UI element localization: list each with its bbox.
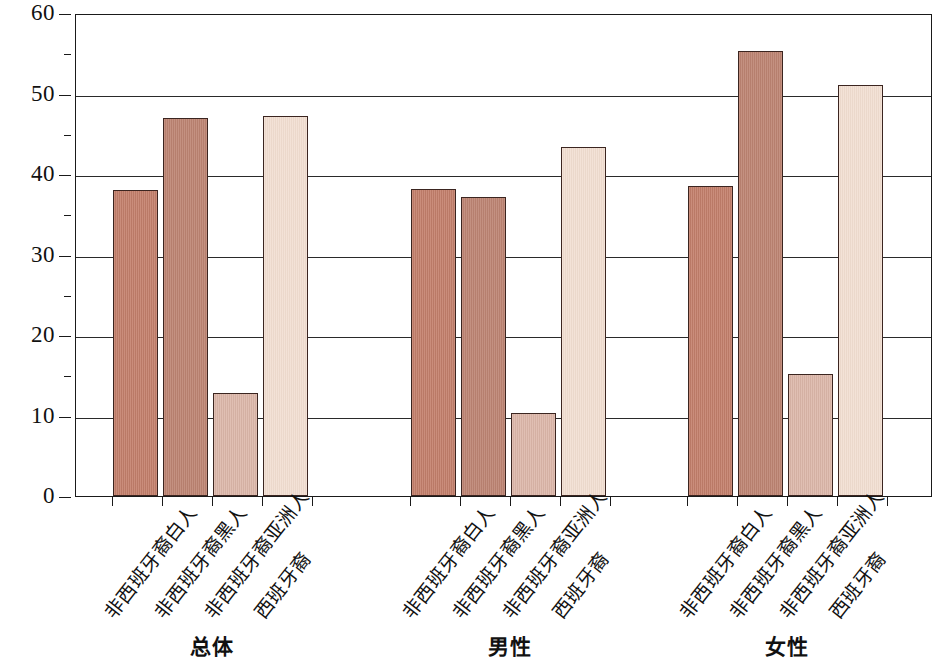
x-axis-group-label: 女性 — [647, 630, 927, 660]
x-axis-group-label: 男性 — [370, 630, 650, 660]
x-axis-tick — [837, 497, 838, 506]
bar — [263, 116, 308, 496]
y-axis-tick-mark — [59, 95, 71, 96]
bar — [461, 197, 506, 496]
y-axis-tick-mark — [59, 497, 71, 498]
chart-canvas: 6050403020100 百分比（%） 非西班牙裔白人非西班牙裔黑人非西班牙裔… — [0, 0, 938, 661]
gridline — [76, 96, 931, 97]
y-axis-tick-mark — [59, 14, 71, 15]
x-axis-tick — [410, 497, 411, 506]
y-axis-minor-tick — [64, 135, 71, 136]
y-axis-tick-label: 0 — [43, 483, 55, 509]
x-axis-tick — [687, 497, 688, 506]
x-axis-tick — [460, 497, 461, 506]
bar — [838, 85, 883, 496]
bar — [113, 190, 158, 496]
x-axis-tick — [787, 497, 788, 506]
bar — [738, 51, 783, 496]
bar — [213, 393, 258, 496]
bar — [411, 189, 456, 496]
y-axis-tick-label: 60 — [31, 0, 55, 26]
x-axis-tick — [887, 497, 888, 506]
bar — [788, 374, 833, 496]
x-axis-tick — [262, 497, 263, 506]
bar — [561, 147, 606, 496]
y-axis-minor-tick — [64, 376, 71, 377]
x-axis-tick — [610, 497, 611, 506]
bar — [163, 118, 208, 496]
y-axis-tick-label: 10 — [31, 403, 55, 429]
x-axis-tick — [510, 497, 511, 506]
y-axis-tick-label: 50 — [31, 81, 55, 107]
x-axis-tick — [737, 497, 738, 506]
x-axis-tick — [312, 497, 313, 506]
x-axis-group-label: 总体 — [72, 630, 352, 660]
y-axis-tick-label: 40 — [31, 161, 55, 187]
x-axis-tick — [212, 497, 213, 506]
plot-area — [75, 14, 932, 497]
y-axis-tick-mark — [59, 417, 71, 418]
bar — [688, 186, 733, 496]
y-axis-minor-tick — [64, 54, 71, 55]
x-axis-tick — [112, 497, 113, 506]
x-axis-tick — [560, 497, 561, 506]
x-axis-tick — [162, 497, 163, 506]
y-axis-tick-mark — [59, 175, 71, 176]
bar — [511, 413, 556, 496]
